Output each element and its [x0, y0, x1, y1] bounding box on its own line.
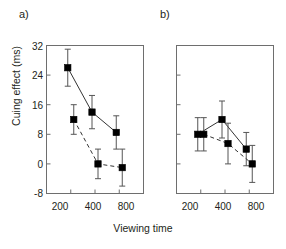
data-marker [89, 109, 95, 115]
panel-b-plot [177, 46, 274, 194]
plot-frame [47, 46, 144, 194]
data-marker [249, 161, 255, 167]
figure-container: a) b) Cuing effect (ms) Viewing time 32 … [0, 0, 286, 249]
data-marker [201, 131, 207, 137]
panel-a-plot [47, 46, 144, 194]
data-marker [195, 131, 201, 137]
data-marker [243, 146, 249, 152]
data-marker [119, 164, 125, 170]
plot-svg [0, 0, 286, 249]
data-marker [219, 116, 225, 122]
data-marker [95, 161, 101, 167]
data-marker [225, 140, 231, 146]
data-marker [71, 116, 77, 122]
data-marker [113, 129, 119, 135]
data-marker [65, 65, 71, 71]
